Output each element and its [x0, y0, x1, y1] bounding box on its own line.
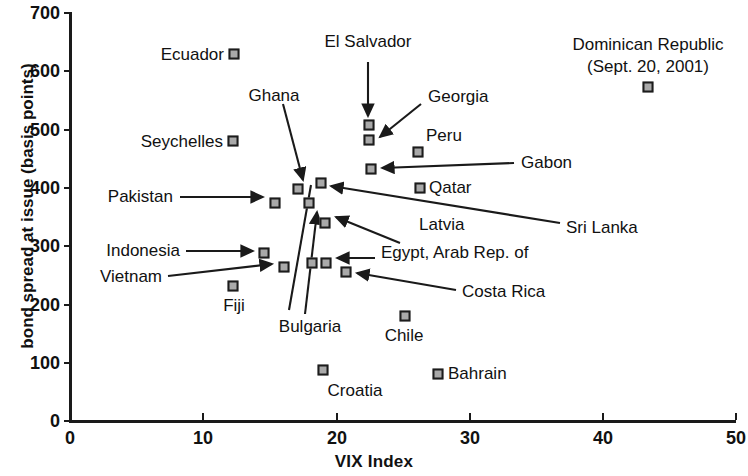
y-tick-400	[64, 187, 71, 189]
x-tick-label-10: 10	[193, 428, 213, 449]
data-point-vietnam[interactable]	[279, 262, 290, 273]
y-tick-label-700: 700	[30, 3, 60, 24]
data-point-peru[interactable]	[413, 147, 424, 158]
label-el-salvador: El Salvador	[325, 33, 412, 51]
label-sri-lanka: Sri Lanka	[566, 219, 638, 237]
data-point-el-salvador[interactable]	[364, 120, 375, 131]
label-peru: Peru	[426, 127, 462, 145]
data-point-gabon[interactable]	[366, 164, 377, 175]
data-point-ecuador[interactable]	[229, 49, 240, 60]
data-point-seychelles[interactable]	[228, 136, 239, 147]
x-tick-30	[469, 413, 471, 420]
label-dominican-republic-line2: (Sept. 20, 2001)	[587, 58, 709, 76]
label-gabon: Gabon	[521, 154, 572, 172]
data-point-croatia[interactable]	[318, 365, 329, 376]
data-point-fiji[interactable]	[228, 281, 239, 292]
label-ghana: Ghana	[248, 87, 299, 105]
data-point-costa-rica[interactable]	[341, 267, 352, 278]
label-dominican-republic-line1: Dominican Republic	[572, 36, 723, 54]
label-seychelles: Seychelles	[141, 133, 223, 151]
x-tick-label-0: 0	[65, 428, 75, 449]
x-tick-label-50: 50	[726, 428, 746, 449]
data-point-chile[interactable]	[400, 311, 411, 322]
label-croatia: Croatia	[328, 382, 383, 400]
label-latvia: Latvia	[419, 216, 464, 234]
data-point-bahrain[interactable]	[433, 369, 444, 380]
x-tick-0	[69, 413, 71, 420]
label-vietnam: Vietnam	[100, 268, 162, 286]
label-pakistan: Pakistan	[108, 188, 173, 206]
y-tick-label-0: 0	[50, 411, 60, 432]
label-qatar: Qatar	[429, 179, 472, 197]
data-point-sri-lanka[interactable]	[316, 178, 327, 189]
y-tick-700	[64, 12, 71, 14]
y-axis-title: bond spread at issue (basis points)	[18, 26, 38, 386]
x-tick-10	[202, 413, 204, 420]
x-tick-40	[602, 413, 604, 420]
scatter-plot-figure: 0 10 20 30 40 50 0 100 200 300 400 500 6…	[0, 0, 748, 476]
data-point-indonesia[interactable]	[259, 248, 270, 259]
x-axis-line	[69, 420, 736, 423]
x-tick-20	[336, 413, 338, 420]
x-axis-title: VIX Index	[0, 452, 748, 472]
label-bulgaria: Bulgaria	[279, 318, 341, 336]
data-point-georgia[interactable]	[364, 135, 375, 146]
x-tick-label-20: 20	[327, 428, 347, 449]
data-point-bulgaria[interactable]	[304, 198, 315, 209]
data-point-egypt-a[interactable]	[307, 258, 318, 269]
y-tick-300	[64, 245, 71, 247]
y-tick-0	[64, 420, 71, 422]
data-point-latvia[interactable]	[320, 218, 331, 229]
label-bahrain: Bahrain	[448, 365, 507, 383]
data-point-ghana[interactable]	[293, 184, 304, 195]
y-axis-line	[69, 12, 72, 422]
data-point-qatar[interactable]	[415, 183, 426, 194]
x-tick-50	[735, 413, 737, 420]
data-point-dominican-republic[interactable]	[643, 82, 654, 93]
label-costa-rica: Costa Rica	[462, 283, 545, 301]
label-georgia: Georgia	[428, 88, 488, 106]
y-tick-200	[64, 304, 71, 306]
label-indonesia: Indonesia	[106, 242, 180, 260]
data-point-egypt-b[interactable]	[321, 258, 332, 269]
y-tick-600	[64, 70, 71, 72]
y-tick-500	[64, 129, 71, 131]
label-egypt: Egypt, Arab Rep. of	[381, 244, 528, 262]
label-ecuador: Ecuador	[161, 46, 224, 64]
y-tick-100	[64, 362, 71, 364]
x-tick-label-30: 30	[460, 428, 480, 449]
label-fiji: Fiji	[223, 297, 245, 315]
label-chile: Chile	[385, 327, 424, 345]
x-tick-label-40: 40	[593, 428, 613, 449]
data-point-pakistan[interactable]	[270, 198, 281, 209]
